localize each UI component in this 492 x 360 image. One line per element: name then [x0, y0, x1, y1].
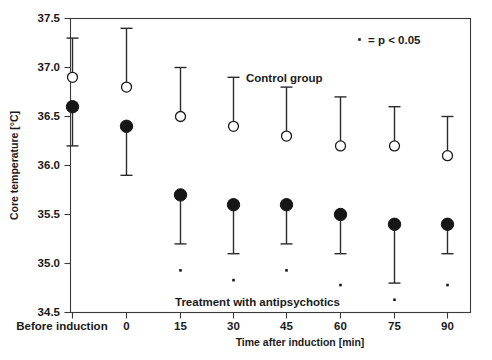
y-tick-group	[65, 19, 71, 313]
chart-figure: 34.5 35.0 35.5 36.0 36.5 37.0 37.5 Core …	[0, 0, 492, 360]
filled-circle-marker	[280, 199, 292, 211]
y-tick-label-37-5: 37.5	[38, 12, 61, 24]
open-circle-marker	[68, 72, 78, 82]
x-axis-title: Time after induction [min]	[236, 336, 365, 348]
x-tick-label-90: 90	[441, 320, 454, 332]
y-tick-label-36-5: 36.5	[38, 110, 61, 122]
y-tick-label-37-0: 37.0	[38, 61, 60, 73]
series-control-group	[67, 28, 454, 160]
x-axis: Before induction 0 15 30 45 60 75 90 Tim…	[16, 313, 454, 349]
series-treatment-group	[66, 101, 453, 284]
open-circle-marker	[443, 151, 453, 161]
x-tick-group	[73, 313, 448, 319]
significance-mark-15	[179, 269, 182, 272]
filled-circle-marker	[66, 101, 78, 113]
y-axis: 34.5 35.0 35.5 36.0 36.5 37.0 37.5 Core …	[8, 12, 71, 318]
data-point-75	[388, 218, 400, 283]
significance-mark-75	[393, 298, 396, 301]
data-point-60	[335, 97, 347, 151]
data-point-15	[175, 68, 187, 122]
significance-legend: = p < 0.05	[358, 34, 421, 46]
x-tick-label-0: 0	[123, 320, 129, 332]
y-tick-label-35-0: 35.0	[38, 257, 60, 269]
data-point-15	[174, 189, 186, 244]
data-point-30	[227, 199, 239, 254]
data-point-60	[334, 208, 346, 253]
filled-circle-marker	[441, 218, 453, 230]
open-circle-marker	[229, 121, 239, 131]
filled-circle-marker	[120, 120, 132, 132]
control-group-label: Control group	[246, 72, 323, 84]
data-point-30	[228, 77, 240, 131]
x-tick-label-45: 45	[280, 320, 293, 332]
significance-legend-label: = p < 0.05	[368, 34, 421, 46]
data-point-0	[121, 28, 133, 92]
filled-circle-marker	[388, 218, 400, 230]
data-point-45	[280, 199, 292, 244]
y-tick-label-36-0: 36.0	[38, 159, 60, 171]
y-tick-label-35-5: 35.5	[38, 208, 61, 220]
open-circle-marker	[122, 82, 132, 92]
data-point-before-induction	[66, 101, 78, 146]
treatment-group-label: Treatment with antipsychotics	[175, 296, 340, 308]
significance-mark-45	[285, 269, 288, 272]
open-circle-marker	[176, 112, 186, 122]
x-tick-label-30: 30	[227, 320, 240, 332]
y-tick-label-34-5: 34.5	[38, 306, 61, 318]
significance-asterisk-icon	[358, 38, 361, 41]
data-point-before-induction	[67, 38, 79, 82]
data-point-90	[441, 218, 453, 254]
data-point-45	[281, 87, 293, 141]
data-point-0	[120, 120, 132, 175]
plot-frame	[71, 19, 471, 313]
y-axis-title: Core temperature [°C]	[8, 111, 20, 220]
filled-circle-marker	[227, 199, 239, 211]
open-circle-marker	[336, 141, 346, 151]
data-series-layer	[66, 28, 453, 283]
x-tick-label-before-induction: Before induction	[16, 320, 107, 332]
significance-mark-90	[446, 284, 449, 287]
open-circle-marker	[282, 131, 292, 141]
filled-circle-marker	[174, 189, 186, 201]
data-point-75	[389, 107, 401, 151]
x-tick-label-60: 60	[334, 320, 347, 332]
significance-mark-60	[339, 284, 342, 287]
open-circle-marker	[390, 141, 400, 151]
x-tick-label-15: 15	[174, 320, 187, 332]
filled-circle-marker	[334, 208, 346, 220]
x-tick-label-75: 75	[388, 320, 401, 332]
significance-mark-30	[232, 279, 235, 282]
data-point-90	[442, 117, 454, 161]
core-temperature-scatter-chart: 34.5 35.0 35.5 36.0 36.5 37.0 37.5 Core …	[0, 0, 492, 360]
chart-annotations: Control group Treatment with antipsychot…	[175, 72, 340, 308]
